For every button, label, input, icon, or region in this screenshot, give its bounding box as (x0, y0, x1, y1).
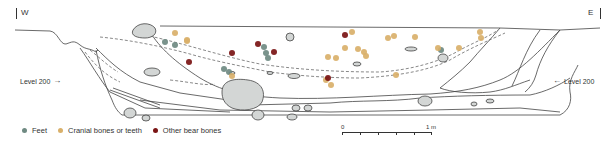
boulder (222, 79, 263, 110)
legend-label: Feet (32, 126, 47, 135)
legend-item-other: Other bear bones (153, 126, 221, 135)
stone (471, 102, 477, 106)
cranial-bone-point (184, 38, 190, 44)
cranial-bone-point (363, 53, 369, 59)
bone-points (162, 29, 484, 88)
stone (353, 62, 361, 66)
feet-bone-point (162, 39, 168, 45)
stone (418, 96, 432, 106)
other-bone-point (342, 32, 348, 38)
stone (438, 54, 448, 62)
level-200-right: ← Level 200 (553, 77, 594, 85)
section-figure: W E (0, 0, 615, 148)
cranial-bone-point (172, 30, 178, 36)
scale-end-label: 1 m (426, 124, 436, 130)
scale-start-label: 0 (341, 124, 344, 130)
feet-bone-point (221, 66, 227, 72)
scale-tick (414, 132, 415, 135)
level-label-left: Level 200 (20, 78, 50, 85)
stone (292, 105, 300, 111)
stones (124, 24, 494, 121)
stone (252, 110, 264, 120)
cranial-bone-point (477, 29, 483, 35)
legend-label: Other bear bones (163, 126, 221, 135)
stone (287, 114, 297, 120)
other-bone-point (186, 59, 192, 65)
other-bone-point (229, 50, 235, 56)
other-bone-point (255, 41, 261, 47)
scale-tick (431, 132, 432, 135)
cranial-bone-point (325, 54, 331, 60)
stone (144, 68, 160, 76)
cranial-bone-point (478, 35, 484, 41)
cranial-bone-point (355, 46, 361, 52)
cranial-bone-point (328, 82, 334, 88)
other-bone-point (325, 75, 331, 81)
cranial-bone-point (385, 35, 391, 41)
cranial-bone-point (333, 55, 339, 61)
level-label-right: Level 200 (564, 78, 594, 85)
feet-bone-point (172, 42, 178, 48)
cranial-bone-point (342, 45, 348, 51)
cranial-bone-point (456, 45, 462, 51)
stone (267, 72, 273, 75)
stone (124, 108, 136, 118)
feet-bone-point (265, 55, 271, 61)
scale-tick (396, 132, 397, 135)
stone (304, 105, 312, 111)
scale-line (342, 132, 432, 133)
legend-label: Cranial bones or teeth (68, 126, 142, 135)
scale-tick (360, 132, 361, 135)
arrow-left-icon: ← (553, 77, 561, 85)
stone (286, 33, 294, 41)
cranial-bone-point (391, 33, 397, 39)
cranial-dot-icon (58, 128, 63, 133)
arrow-right-icon: → (53, 77, 61, 85)
cranial-bone-point (412, 34, 418, 40)
feet-dot-icon (22, 128, 27, 133)
other-bone-point (271, 49, 277, 55)
stone (405, 47, 417, 51)
level-200-left: Level 200 → (20, 77, 61, 85)
stone (132, 24, 155, 38)
stone (142, 115, 150, 121)
stone (288, 74, 300, 79)
legend-item-cranial: Cranial bones or teeth (58, 126, 142, 135)
stone (486, 99, 494, 103)
scale-tick (342, 132, 343, 135)
other-bones-dot-icon (153, 128, 158, 133)
legend: Feet Cranial bones or teeth Other bear b… (22, 126, 232, 135)
cranial-bone-point (393, 72, 399, 78)
cranial-bone-point (229, 73, 235, 79)
legend-item-feet: Feet (22, 126, 47, 135)
scale-tick (378, 132, 379, 135)
cranial-bone-point (349, 29, 355, 35)
stratigraphy-lines (15, 26, 600, 115)
scale-bar: 0 1 m (342, 124, 437, 140)
feet-bone-point (261, 44, 267, 50)
cranial-bone-point (435, 45, 441, 51)
